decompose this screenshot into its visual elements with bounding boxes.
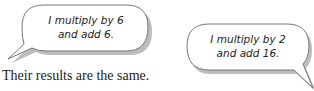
right-bubble-text: I multiply by 2 and add 16. [188, 32, 308, 60]
left-bubble-line-2: and add 6. [24, 27, 148, 41]
caption: Their results are the same. [2, 68, 149, 84]
right-bubble-line-2: and add 16. [188, 46, 308, 60]
left-bubble-text: I multiply by 6 and add 6. [24, 13, 148, 41]
right-bubble-line-1: I multiply by 2 [188, 32, 308, 46]
left-bubble-line-1: I multiply by 6 [24, 13, 148, 27]
